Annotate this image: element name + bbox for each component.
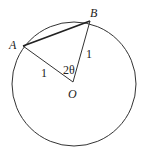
circle <box>12 22 136 146</box>
circle-diagram: A B O 1 1 2θ <box>0 0 141 156</box>
point-o-label: O <box>68 87 77 101</box>
point-b-label: B <box>90 6 98 20</box>
angle-label: 2θ <box>63 63 75 77</box>
ob-length-label: 1 <box>86 47 92 61</box>
point-a-label: A <box>8 38 17 52</box>
oa-length-label: 1 <box>41 66 47 80</box>
